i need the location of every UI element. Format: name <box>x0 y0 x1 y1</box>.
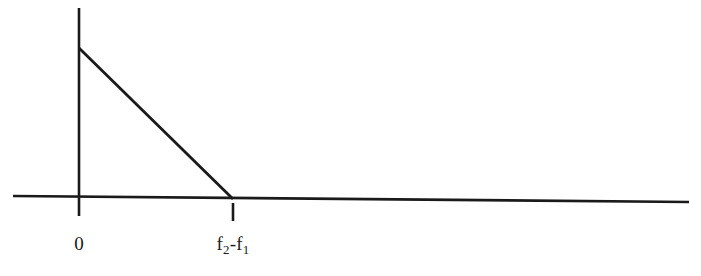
x-axis-label-cutoff: f2-f1 <box>154 234 312 253</box>
x-axis-label-origin: 0 <box>0 234 158 253</box>
horizontal-axis-line <box>13 196 689 202</box>
spectrum-figure: 0 f2-f1 <box>0 0 701 276</box>
spectrum-slope-line <box>79 48 233 199</box>
cutoff-label-f1-subscript: 1 <box>243 242 250 257</box>
cutoff-label-f2-subscript: 2 <box>223 242 230 257</box>
